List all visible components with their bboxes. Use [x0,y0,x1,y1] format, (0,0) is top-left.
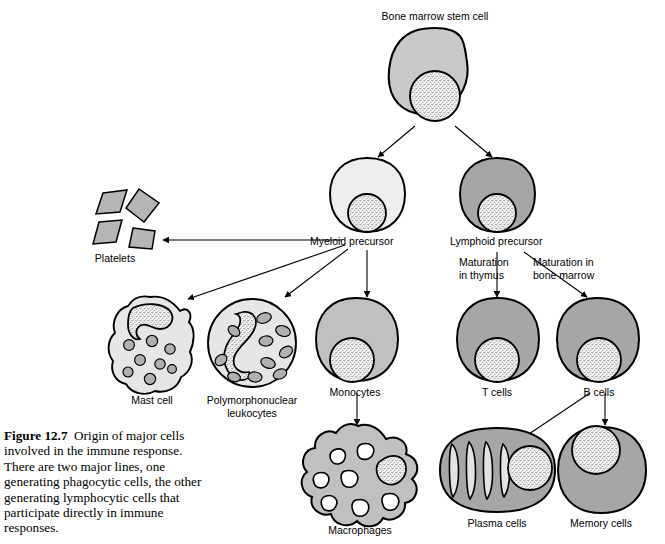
label-mast-cell: Mast cell [131,394,172,406]
label-monocytes: Monocytes [330,386,381,398]
label-maturation-thymus-line2: in thymus [459,269,504,281]
arrow-stem-to-myeloid [378,126,415,157]
label-platelets: Platelets [95,252,135,264]
label-pmn-line1: Polymorphonuclear [207,394,298,406]
cell-platelets [93,189,159,249]
cell-bone-marrow-stem-cell [389,28,468,121]
label-pmn-line2: leukocytes [227,407,277,419]
arrow-stem-to-lymphoid [455,126,492,157]
cell-macrophages [302,424,418,526]
cell-myeloid-precursor [330,158,405,232]
figure-caption-label: Figure 12.7 [4,428,68,443]
cell-t-cells [457,298,539,382]
label-maturation-thymus-line1: Maturation [459,256,509,268]
cell-lymphoid-precursor [460,158,535,232]
figure-caption-text: Origin of major cells involved in the im… [4,428,201,535]
cell-mast-cell [109,296,194,393]
label-t-cells: T cells [482,386,512,398]
label-b-cells: B cells [584,386,615,398]
label-macrophages: Macrophages [328,524,392,536]
cell-b-cells [557,298,639,382]
label-lymphoid-precursor: Lymphoid precursor [450,235,543,247]
label-bone-marrow-stem-cell: Bone marrow stem cell [382,10,489,22]
label-plasma-cells: Plasma cells [468,517,527,529]
cell-memory-cells [558,426,646,513]
cell-polymorphonuclear-leukocytes [208,299,296,387]
label-maturation-marrow-line2: bone marrow [533,269,595,281]
arrow-myeloid-to-pmn [285,249,348,297]
cell-monocytes [316,298,398,382]
cell-plasma-cells [440,428,555,512]
label-maturation-marrow-line1: Maturation in [533,256,594,268]
figure-container: Bone marrow stem cell Myeloid precursor … [0,0,665,544]
arrow-myeloid-to-mastcell [188,245,345,299]
figure-caption: Figure 12.7 Origin of major cells involv… [4,428,216,536]
label-myeloid-precursor: Myeloid precursor [310,235,394,247]
label-memory-cells: Memory cells [570,517,632,529]
